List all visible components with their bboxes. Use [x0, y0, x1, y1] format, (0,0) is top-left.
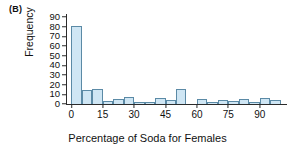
x-tick-label: 75 [223, 110, 234, 120]
x-tick-mark [228, 104, 229, 108]
x-tick-label: 0 [68, 110, 74, 120]
y-tick-label: 50 [44, 51, 60, 61]
x-tick: 90 [254, 104, 265, 120]
y-tick: 50 [44, 51, 66, 61]
y-tick-label: 70 [44, 32, 60, 42]
y-tick: 0 [44, 99, 66, 109]
y-tick-label: 60 [44, 41, 60, 51]
histogram-bar [92, 89, 102, 104]
histogram-bar [71, 26, 81, 104]
y-tick-mark [62, 74, 66, 75]
y-tick: 70 [44, 32, 66, 42]
histogram-bar [113, 99, 123, 104]
histogram-bar [124, 97, 134, 104]
x-tick: 0 [68, 104, 74, 120]
y-tick-mark [62, 16, 66, 17]
y-tick-label: 80 [44, 22, 60, 32]
y-tick-mark [62, 65, 66, 66]
y-tick-mark [62, 104, 66, 105]
x-tick-label: 15 [97, 110, 108, 120]
histogram-bar [145, 102, 155, 104]
y-tick-label: 30 [44, 70, 60, 80]
y-tick: 60 [44, 41, 66, 51]
panel-label: (B) [9, 4, 22, 14]
x-tick-mark [134, 104, 135, 108]
y-tick-label: 40 [44, 61, 60, 71]
x-tick: 45 [160, 104, 171, 120]
x-tick-label: 30 [129, 110, 140, 120]
x-tick-label: 60 [191, 110, 202, 120]
x-tick: 75 [223, 104, 234, 120]
y-tick-mark [62, 84, 66, 85]
y-tick-mark [62, 36, 66, 37]
histogram-bar [239, 99, 249, 104]
y-tick-label: 10 [44, 90, 60, 100]
y-tick: 90 [44, 12, 66, 22]
y-tick-mark [62, 45, 66, 46]
y-tick: 20 [44, 80, 66, 90]
y-tick-mark [62, 55, 66, 56]
x-tick-label: 90 [254, 110, 265, 120]
x-tick-mark [196, 104, 197, 108]
histogram-bar [270, 100, 280, 104]
x-axis-title: Percentage of Soda for Females [0, 132, 295, 144]
y-tick-mark [62, 26, 66, 27]
x-tick-mark [71, 104, 72, 108]
y-tick-label: 0 [44, 99, 60, 109]
y-tick-mark [62, 94, 66, 95]
x-tick-label: 45 [160, 110, 171, 120]
y-tick: 80 [44, 22, 66, 32]
histogram-figure: (B) Frequency 0102030405060708090 015304… [0, 0, 295, 154]
y-tick-label: 90 [44, 12, 60, 22]
x-tick: 15 [97, 104, 108, 120]
x-tick-mark [102, 104, 103, 108]
histogram-bar [82, 90, 92, 104]
x-tick: 30 [129, 104, 140, 120]
x-tick-mark [165, 104, 166, 108]
histogram-bar [207, 102, 217, 104]
y-tick: 40 [44, 61, 66, 71]
y-tick: 10 [44, 90, 66, 100]
x-tick: 60 [191, 104, 202, 120]
y-tick: 30 [44, 70, 66, 80]
y-axis-title: Frequency [23, 0, 35, 74]
x-tick-mark [259, 104, 260, 108]
plot-area: 0102030405060708090 [66, 14, 286, 104]
y-tick-label: 20 [44, 80, 60, 90]
histogram-bar [176, 89, 186, 104]
